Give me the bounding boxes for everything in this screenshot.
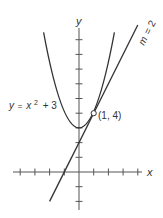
curve-equation-label: y = x 2 + 3: [8, 96, 57, 111]
point-label: (1, 4): [98, 110, 121, 121]
svg-text:y = x 2: y = x 2 + 3: [8, 96, 57, 111]
y-axis-label: y: [75, 15, 83, 27]
x-axis-label: x: [146, 166, 153, 178]
slope-label: m = 2: [136, 18, 158, 47]
svg-text:m = 2: m = 2: [136, 18, 158, 47]
graph-canvas: x y (1, 4) y = x 2 + 3 m = 2: [0, 0, 163, 218]
tangent-point-marker: [91, 111, 96, 116]
